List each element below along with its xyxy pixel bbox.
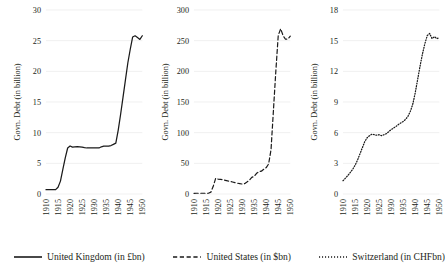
- x-tick-label: 1935: [102, 199, 111, 215]
- gridlines: [194, 10, 290, 194]
- x-tick-label: 1910: [339, 199, 348, 215]
- y-tick-label: 12: [329, 67, 337, 76]
- y-tick-label: 300: [177, 6, 189, 15]
- chart-svg-united-states: 050100150200250300Govn. Debt (in billion…: [148, 0, 296, 240]
- x-tick-label: 1920: [66, 199, 75, 215]
- y-axis-title: Govn. Debt (in billion): [13, 63, 22, 140]
- legend-label-united-states: United States (in $bn): [206, 251, 290, 262]
- y-axis-title: Govn. Debt (in billion): [310, 63, 319, 140]
- legend-entry-switzerland: Switzerland (in CHFbn): [319, 251, 445, 262]
- x-tick-label: 1940: [114, 199, 123, 215]
- x-tick-label: 1950: [138, 199, 147, 215]
- figure-three-panel-government-debt: 051015202530Govn. Debt (in billion)19101…: [0, 0, 445, 273]
- panel-container: 051015202530Govn. Debt (in billion)19101…: [0, 0, 445, 240]
- x-tick-label: 1940: [263, 199, 272, 215]
- y-tick-label: 15: [329, 37, 337, 46]
- series-line-united-kingdom: [46, 36, 142, 190]
- panel-united-kingdom: 051015202530Govn. Debt (in billion)19101…: [0, 0, 148, 240]
- y-tick-label: 5: [37, 159, 41, 168]
- x-tick-label: 1925: [375, 199, 384, 215]
- x-axis-tick-labels: 191019151920192519301935194019451950: [339, 199, 444, 215]
- y-tick-label: 150: [177, 98, 189, 107]
- gridlines: [343, 10, 439, 194]
- legend-row: United Kingdom (in £bn) United States (i…: [0, 240, 445, 273]
- x-tick-label: 1915: [202, 199, 211, 215]
- x-tick-label: 1920: [214, 199, 223, 215]
- y-tick-label: 0: [37, 190, 41, 199]
- y-tick-label: 25: [33, 37, 41, 46]
- legend-swatch-solid-icon: [14, 252, 42, 262]
- legend-label-united-kingdom: United Kingdom (in £bn): [47, 251, 145, 262]
- x-tick-label: 1945: [275, 199, 284, 215]
- series-line-switzerland: [343, 34, 439, 181]
- x-tick-label: 1945: [423, 199, 432, 215]
- y-tick-label: 250: [177, 37, 189, 46]
- y-tick-label: 0: [333, 190, 337, 199]
- y-tick-label: 20: [33, 67, 41, 76]
- y-tick-label: 6: [333, 129, 337, 138]
- x-tick-label: 1950: [287, 199, 296, 215]
- panel-switzerland: 0369121518Govn. Debt (in billion)1910191…: [297, 0, 445, 240]
- y-tick-label: 50: [181, 159, 189, 168]
- y-tick-label: 200: [177, 67, 189, 76]
- y-tick-label: 3: [333, 159, 337, 168]
- x-axis-tick-labels: 191019151920192519301935194019451950: [190, 199, 295, 215]
- gridlines: [46, 10, 142, 194]
- series-line-united-states: [194, 29, 290, 194]
- y-axis-tick-labels: 0369121518: [329, 6, 337, 199]
- x-tick-label: 1930: [238, 199, 247, 215]
- y-tick-label: 30: [33, 6, 41, 15]
- legend-label-switzerland: Switzerland (in CHFbn): [352, 251, 445, 262]
- panel-united-states: 050100150200250300Govn. Debt (in billion…: [148, 0, 296, 240]
- y-tick-label: 15: [33, 98, 41, 107]
- x-tick-label: 1930: [387, 199, 396, 215]
- legend-swatch-dashed-icon: [173, 252, 201, 262]
- y-tick-label: 10: [33, 129, 41, 138]
- y-tick-label: 100: [177, 129, 189, 138]
- x-tick-label: 1920: [363, 199, 372, 215]
- x-tick-label: 1915: [54, 199, 63, 215]
- y-axis-tick-labels: 051015202530: [33, 6, 41, 199]
- x-tick-label: 1910: [190, 199, 199, 215]
- x-tick-label: 1915: [351, 199, 360, 215]
- chart-legend: United Kingdom (in £bn) United States (i…: [0, 240, 445, 273]
- x-tick-label: 1945: [126, 199, 135, 215]
- x-tick-label: 1930: [90, 199, 99, 215]
- x-axis-tick-labels: 191019151920192519301935194019451950: [42, 199, 147, 215]
- y-axis-tick-labels: 050100150200250300: [177, 6, 189, 199]
- chart-svg-united-kingdom: 051015202530Govn. Debt (in billion)19101…: [0, 0, 148, 240]
- x-tick-label: 1925: [78, 199, 87, 215]
- x-tick-label: 1940: [411, 199, 420, 215]
- legend-entry-united-states: United States (in $bn): [173, 251, 319, 262]
- legend-swatch-dotted-icon: [319, 252, 347, 262]
- x-tick-label: 1950: [435, 199, 444, 215]
- legend-entry-united-kingdom: United Kingdom (in £bn): [14, 251, 173, 262]
- x-tick-label: 1925: [226, 199, 235, 215]
- y-axis-title: Govn. Debt (in billion): [161, 63, 170, 140]
- x-tick-label: 1910: [42, 199, 51, 215]
- x-tick-label: 1935: [250, 199, 259, 215]
- y-tick-label: 0: [185, 190, 189, 199]
- chart-svg-switzerland: 0369121518Govn. Debt (in billion)1910191…: [297, 0, 445, 240]
- x-tick-label: 1935: [399, 199, 408, 215]
- y-tick-label: 9: [333, 98, 337, 107]
- y-tick-label: 18: [329, 6, 337, 15]
